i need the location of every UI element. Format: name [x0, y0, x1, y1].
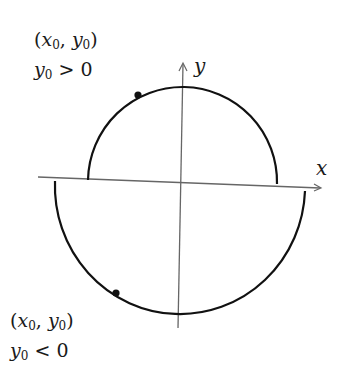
x-axis-label: x — [316, 156, 327, 180]
y-axis — [178, 64, 183, 328]
upper-point-coords: (x0, y0) — [34, 27, 98, 57]
upper-point-label: (x0, y0) y0 > 0 — [34, 27, 98, 87]
upper-point-marker — [134, 91, 141, 98]
y-axis-label: y — [194, 54, 205, 78]
lower-point-label: (x0, y0) y0 < 0 — [10, 308, 74, 368]
lower-point-marker — [112, 289, 119, 296]
lower-point-coords: (x0, y0) — [10, 308, 74, 338]
lower-point-condition: y0 < 0 — [10, 338, 74, 368]
upper-point-condition: y0 > 0 — [34, 57, 98, 87]
